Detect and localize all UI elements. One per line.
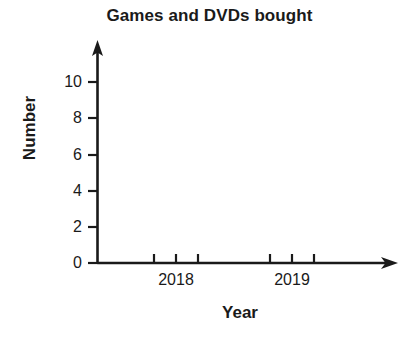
x-tick-label-2019: 2019	[257, 272, 327, 288]
y-tick-label-8: 8	[48, 110, 82, 126]
x-tick-label-2018: 2018	[141, 272, 211, 288]
plot-background	[98, 45, 395, 263]
y-tick-label-10: 10	[48, 74, 82, 90]
y-tick-label-6: 6	[48, 147, 82, 163]
y-tick-label-0: 0	[48, 255, 82, 271]
chart-figure: Games and DVDs bought Number Year	[0, 0, 419, 345]
plot-area	[0, 0, 419, 345]
y-tick-label-2: 2	[48, 219, 82, 235]
y-tick-label-4: 4	[48, 183, 82, 199]
